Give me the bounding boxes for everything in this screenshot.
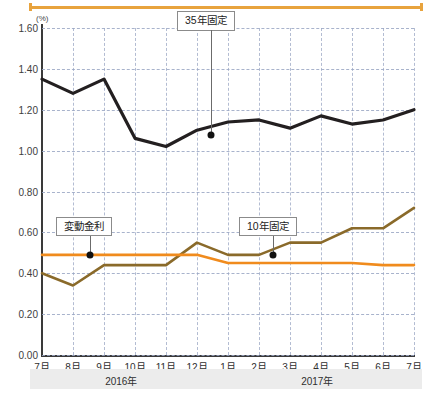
y-tick-label: 1.00 — [19, 145, 38, 156]
callout-variable: 変動金利 — [56, 217, 112, 237]
y-tick-label: 1.20 — [19, 104, 38, 115]
year-label-2017: 2017年 — [213, 373, 423, 388]
callout-fixed10: 10年固定 — [239, 217, 297, 237]
y-tick-label: 0.60 — [19, 227, 38, 238]
gridline-h — [42, 355, 414, 356]
series-line — [42, 79, 414, 146]
callout-marker-fixed35 — [207, 132, 214, 139]
y-tick-label: 1.40 — [19, 63, 38, 74]
callout-leader-fixed35 — [211, 30, 212, 135]
callout-fixed35: 35年固定 — [177, 11, 235, 31]
year-band-2016: 2016年 — [30, 369, 213, 389]
plot-area: 1.601.401.201.000.800.600.400.200.00 7月8… — [42, 28, 414, 355]
year-band-2017: 2017年 — [213, 369, 423, 389]
top-accent-rule — [30, 6, 422, 9]
chart-root: (%) 1.601.401.201.000.800.600.400.200.00… — [0, 0, 429, 395]
series-lines — [42, 28, 414, 355]
year-label-2016: 2016年 — [30, 373, 213, 388]
y-tick-label: 1.60 — [19, 23, 38, 34]
y-tick-label: 0.40 — [19, 268, 38, 279]
callout-marker-variable — [87, 251, 94, 258]
gridline-v — [414, 28, 415, 355]
bottom-spacer — [0, 389, 429, 395]
y-tick-label: 0.20 — [19, 309, 38, 320]
callout-marker-fixed10 — [269, 251, 276, 258]
y-tick-label: 0.80 — [19, 186, 38, 197]
series-line — [42, 255, 414, 265]
